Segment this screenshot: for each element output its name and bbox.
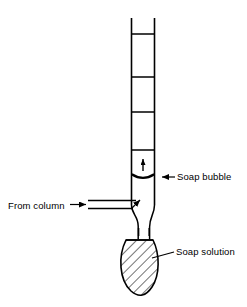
label-soap-bubble: Soap bubble [177,171,231,182]
soap-solution-bulb [121,240,158,295]
diagram-canvas [0,0,247,307]
label-from-column: From column [8,200,65,211]
graduation-marks [131,34,155,150]
tapered-neck [132,205,155,239]
soap-bubble-flowmeter-diagram: From column Soap bubble Soap solution [0,0,247,307]
side-inlet-tube [88,201,136,209]
label-soap-solution: Soap solution [176,246,235,257]
soap-bubble-meniscus [132,174,154,178]
